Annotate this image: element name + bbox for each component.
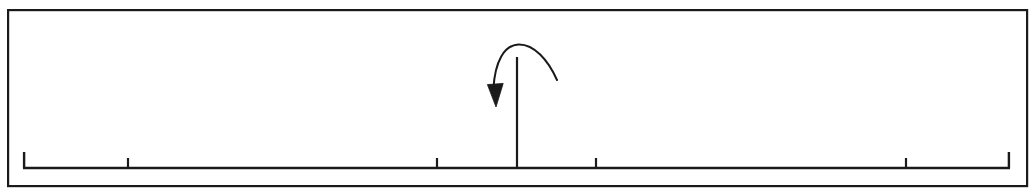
curved-arrow-head-icon	[487, 83, 503, 107]
curved-arrow-shaft	[494, 44, 558, 88]
figure-canvas	[0, 0, 1035, 196]
figure-container	[0, 0, 1035, 196]
